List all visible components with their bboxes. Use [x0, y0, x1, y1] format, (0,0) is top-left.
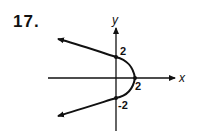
y-axis-label: y	[112, 13, 118, 27]
point-y-2	[114, 55, 118, 59]
graph	[0, 0, 200, 139]
label-y-neg2: -2	[118, 99, 128, 111]
label-x-2: 2	[135, 80, 141, 92]
x-axis-label: x	[179, 71, 185, 85]
label-y-2: 2	[120, 45, 126, 57]
